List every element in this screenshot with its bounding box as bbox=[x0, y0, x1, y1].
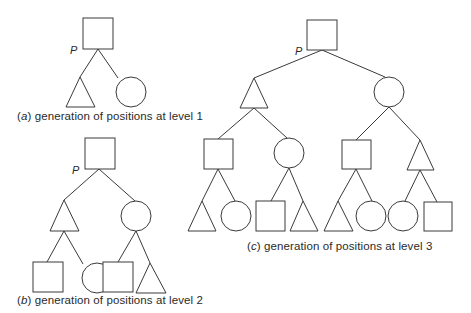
edge bbox=[98, 49, 118, 78]
edge bbox=[202, 169, 218, 201]
square-node bbox=[204, 139, 233, 169]
edge bbox=[118, 231, 136, 262]
root-square-node bbox=[85, 138, 115, 169]
caption-text: generation of positions at level 1 bbox=[35, 110, 203, 122]
panel-b-tree bbox=[33, 138, 166, 293]
square-node bbox=[424, 202, 452, 231]
triangle-node bbox=[240, 78, 268, 108]
root-label-p: P bbox=[70, 44, 77, 56]
triangle-node bbox=[66, 77, 95, 107]
root-label-p: P bbox=[295, 45, 302, 57]
caption-letter: a bbox=[21, 110, 28, 122]
panel-a-tree bbox=[66, 18, 146, 107]
edge bbox=[47, 231, 64, 262]
edge bbox=[254, 50, 322, 78]
edge bbox=[218, 169, 235, 201]
caption-text: generation of positions at level 3 bbox=[264, 240, 432, 252]
edge bbox=[322, 50, 385, 77]
edge bbox=[389, 107, 420, 140]
edge bbox=[64, 231, 83, 264]
circle-node bbox=[121, 201, 151, 231]
caption-text: generation of positions at level 2 bbox=[35, 294, 203, 306]
edge bbox=[99, 169, 135, 201]
triangle-node bbox=[324, 201, 353, 231]
circle-node bbox=[221, 201, 251, 231]
edge bbox=[420, 170, 437, 202]
root-label-p: P bbox=[72, 164, 79, 176]
square-node bbox=[33, 262, 63, 292]
triangle-node bbox=[188, 201, 216, 231]
edge bbox=[356, 169, 372, 201]
circle-node bbox=[274, 138, 304, 168]
triangle-node bbox=[407, 140, 434, 170]
circle-node bbox=[388, 201, 418, 231]
square-node bbox=[256, 201, 285, 231]
circle-node bbox=[356, 201, 386, 231]
edge bbox=[80, 49, 98, 77]
caption-a: (a) generation of positions at level 1 bbox=[17, 110, 203, 122]
square-node bbox=[103, 262, 133, 292]
square-node bbox=[342, 140, 371, 169]
root-square-node bbox=[307, 20, 337, 50]
edge bbox=[338, 169, 356, 201]
caption-letter: b bbox=[21, 294, 28, 306]
caption-b: (b) generation of positions at level 2 bbox=[17, 294, 203, 306]
circle-node bbox=[374, 77, 404, 107]
triangle-node bbox=[50, 200, 79, 231]
panel-c-tree bbox=[188, 20, 452, 231]
triangle-node bbox=[290, 201, 318, 231]
triangle-node bbox=[136, 263, 166, 293]
edge bbox=[289, 168, 303, 201]
edge bbox=[218, 108, 254, 139]
edge bbox=[136, 231, 150, 263]
edge bbox=[405, 170, 420, 201]
circle-node bbox=[116, 77, 146, 107]
caption-c: (c) generation of positions at level 3 bbox=[247, 240, 432, 252]
edge bbox=[356, 107, 389, 140]
edge bbox=[254, 108, 287, 138]
edge bbox=[64, 169, 99, 200]
caption-letter: c bbox=[251, 240, 257, 252]
root-square-node bbox=[83, 18, 113, 49]
edge bbox=[271, 168, 289, 201]
